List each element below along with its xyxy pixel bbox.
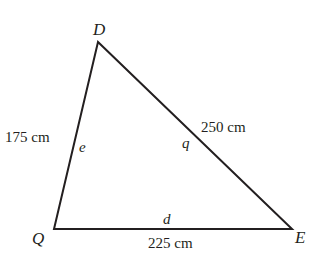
side-de-length: 250 cm — [201, 119, 246, 135]
side-qd-variable: e — [79, 139, 86, 155]
side-de-variable: q — [182, 135, 190, 151]
triangle-dqe — [54, 42, 292, 229]
vertex-label-q: Q — [32, 229, 44, 248]
triangle-diagram: D Q E 175 cm e 250 cm q d 225 cm — [0, 0, 322, 267]
side-qe-variable: d — [163, 211, 171, 227]
vertex-label-e: E — [294, 228, 306, 247]
side-qd-length: 175 cm — [5, 129, 50, 145]
side-qe-length: 225 cm — [148, 235, 193, 251]
vertex-label-d: D — [92, 20, 106, 39]
